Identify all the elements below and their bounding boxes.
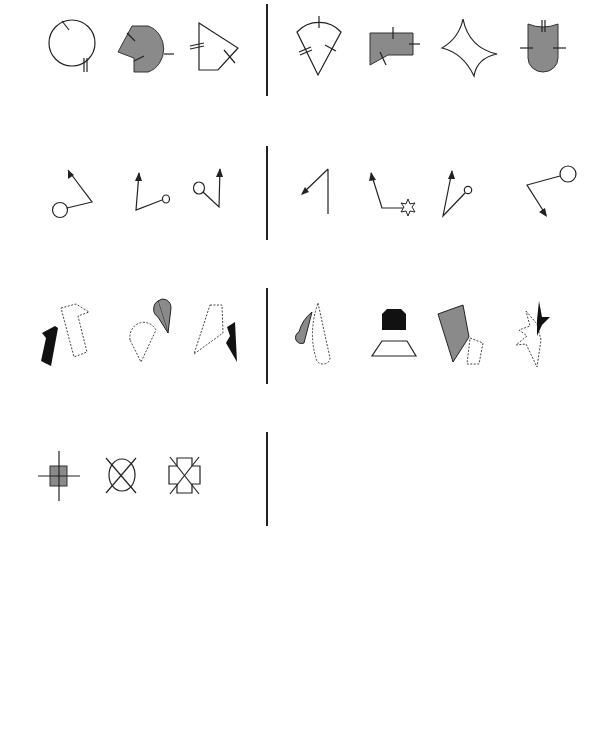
question-16 — [0, 280, 613, 400]
figure-black-and-dashed-pair-1 — [40, 300, 90, 365]
option-b-figure — [366, 170, 426, 220]
option-a-figure — [295, 14, 345, 78]
option-c-figure — [440, 168, 485, 220]
option-c-figure — [437, 305, 497, 367]
option-d-figure — [520, 162, 580, 222]
option-c-figure — [441, 18, 501, 78]
figure-arrow-circle-1 — [45, 168, 100, 223]
question-15 — [0, 140, 613, 250]
divider — [266, 146, 268, 240]
figure-circle-marked — [48, 18, 98, 78]
option-b-figure-main — [370, 308, 422, 358]
option-b-figure-shapes — [310, 308, 360, 358]
figure-square-cross — [38, 451, 83, 503]
figure-black-and-dashed-pair-2 — [192, 302, 247, 367]
divider — [266, 288, 268, 384]
option-b-octagon-trapezoid-real — [310, 308, 311, 309]
question-14 — [0, 0, 613, 110]
figure-ellipse-x — [106, 458, 138, 494]
option-a-figure-hex3 — [249, 451, 250, 452]
option-d-figure — [515, 300, 575, 370]
figure-pentagon-marked — [196, 22, 246, 74]
figure-drop-pair — [128, 300, 178, 365]
option-b-figure — [308, 307, 309, 308]
option-b-figure — [370, 25, 440, 70]
figure-arrow-circle-2 — [125, 170, 175, 215]
figure-cross-shape-x — [168, 457, 204, 497]
figure-gray-sector-shape — [118, 24, 178, 74]
option-a-figure — [296, 168, 336, 218]
divider — [266, 4, 268, 96]
question-17 — [0, 430, 613, 540]
option-d-figure — [520, 20, 580, 75]
option-a-hexagon-cross-figure — [249, 451, 291, 503]
figure-arrow-circle-3 — [190, 166, 240, 211]
